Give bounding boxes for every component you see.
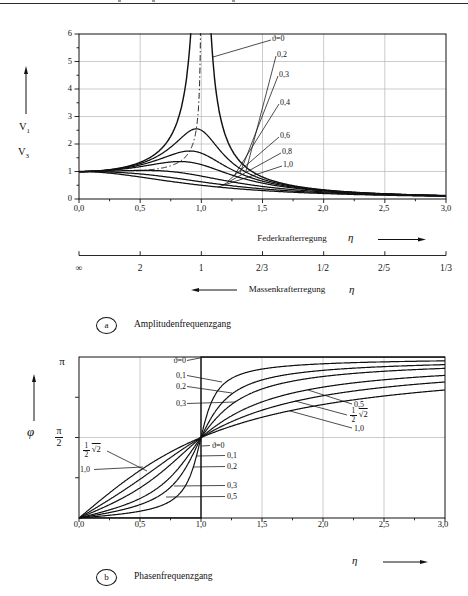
amp-eta-symbol: η [348,231,353,244]
phase-curve-label-r: ϑ=0 [212,441,224,450]
recip-tick: 1 [186,263,216,274]
amp-curve-label: 1,0 [283,160,293,169]
recip-tick: 2/3 [247,263,277,274]
amp-x-tick: 3,0 [433,204,459,214]
amp-y-tick: 4 [52,84,72,94]
amp-y-tick: 0 [52,194,72,204]
phase-curve-label-ul: 0,2 [152,382,186,391]
phase-chart-lines [75,357,445,522]
phase-curve-label-ul: 0,3 [152,399,186,408]
y-axis-label-v3: V3 [18,146,29,160]
phase-pi-label: π [55,355,69,368]
recip-tick: 2/5 [369,263,399,274]
amplitude-chart-lines [75,0,447,203]
amp-curve-label: 0,6 [280,131,290,140]
caption-b-circle: b [96,569,117,586]
amp-curve-label: 0,3 [279,70,289,79]
phase-curve-label-r: 0,5 [227,492,237,501]
phase-curve-label-r: 0,2 [227,462,237,471]
amp-x-tick: 1,0 [188,204,214,214]
amp-curve-label: 0,4 [280,98,290,107]
caption-b-letter: b [104,572,109,582]
amp-y-tick: 5 [52,57,72,67]
amp-curve-label: 0,2 [277,50,287,59]
y-axis-label-v1: V1 [19,121,30,135]
amp-y-tick: 1 [52,167,72,177]
amp-y-tick: 2 [52,139,72,149]
caption-a-circle: a [96,317,117,334]
phase-x-tick: 0,0 [66,520,92,530]
phase-curve-label-ul: ϑ=0 [152,356,186,365]
phase-x-tick: 2,0 [310,520,336,530]
phase-curve-label-ul: 0,1 [152,371,186,380]
caption-a-letter: a [105,320,109,330]
caption-b-text: Phasenfrequenzgang [134,571,213,582]
phase-x-tick: 2,5 [371,520,397,530]
phase-x-tick: 1,5 [249,520,275,530]
recip-tick: ∞ [64,263,94,274]
amp-x-tick: 0,0 [66,204,92,214]
recip-tick: 2 [125,263,155,274]
amp-x-tick: 0,5 [127,204,153,214]
phase-curve-label-r: 0,3 [227,481,237,490]
recip-eta-symbol: η [349,283,354,296]
phase-pi-half-label: π2 [55,426,63,448]
phase-curve-label-r: 0,1 [227,451,237,460]
phase-eta-symbol: η [352,554,357,567]
recip-tick: 1/3 [431,263,461,274]
amp-curve-label: ϑ=0 [272,34,284,43]
amp-locus-of-maxima [136,0,201,171]
caption-a-text: Amplitudenfrequenzgang [134,319,231,330]
phase-x-tick: 3,0 [430,520,456,530]
amp-y-tick: 6 [52,29,72,39]
phase-curve-label-one: 1,0 [80,465,90,474]
figure-page: V1 V3 6 5 4 3 2 1 0 0,0 0,5 1,0 1,5 2,0 … [0,0,468,596]
amp-x-tick: 2,0 [310,204,336,214]
phase-x-tick: 0,5 [127,520,153,530]
amp-x-tick: 2,5 [371,204,397,214]
amp-y-tick: 3 [52,112,72,122]
phase-curve-label-rs: 1,0 [354,424,364,433]
phase-curve-label-half-sqrt2: 12√2 [83,442,101,459]
phase-x-tick: 1,0 [188,520,214,530]
phase-phi-symbol: φ [27,425,34,440]
phase-curve-label-rs-half-sqrt2: 12√2 [350,407,368,424]
amp-curve-label: 0,8 [282,147,292,156]
recip-caption: Massenkrafterregung [240,284,334,294]
recip-tick: 1/2 [308,263,338,274]
amp-x-tick: 1,5 [249,204,275,214]
amp-x-axis-caption: Federkrafterregung [230,233,354,243]
